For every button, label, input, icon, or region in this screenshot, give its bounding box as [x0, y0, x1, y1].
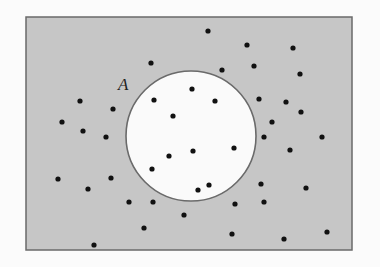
- point-outside-a: [141, 225, 146, 230]
- point-outside-a: [150, 199, 155, 204]
- venn-diagram: A: [0, 0, 380, 267]
- point-outside-a: [126, 199, 131, 204]
- point-outside-a: [110, 106, 115, 111]
- point-inside-a: [166, 153, 171, 158]
- point-inside-a: [189, 86, 194, 91]
- point-inside-a: [212, 98, 217, 103]
- point-outside-a: [205, 28, 210, 33]
- point-outside-a: [181, 212, 186, 217]
- point-outside-a: [55, 176, 60, 181]
- point-outside-a: [261, 199, 266, 204]
- point-outside-a: [290, 45, 295, 50]
- point-outside-a: [77, 98, 82, 103]
- point-outside-a: [103, 134, 108, 139]
- point-outside-a: [219, 67, 224, 72]
- point-outside-a: [59, 119, 64, 124]
- point-outside-a: [85, 186, 90, 191]
- point-outside-a: [281, 236, 286, 241]
- point-outside-a: [251, 63, 256, 68]
- point-outside-a: [108, 175, 113, 180]
- point-inside-a: [206, 182, 211, 187]
- point-inside-a: [149, 166, 154, 171]
- point-outside-a: [80, 128, 85, 133]
- point-outside-a: [298, 109, 303, 114]
- point-outside-a: [287, 147, 292, 152]
- point-outside-a: [256, 96, 261, 101]
- point-inside-a: [151, 97, 156, 102]
- point-outside-a: [229, 231, 234, 236]
- point-inside-a: [170, 113, 175, 118]
- point-outside-a: [244, 42, 249, 47]
- set-a-label: A: [117, 75, 129, 94]
- point-outside-a: [91, 242, 96, 247]
- point-outside-a: [297, 71, 302, 76]
- point-inside-a: [195, 187, 200, 192]
- point-outside-a: [324, 229, 329, 234]
- point-outside-a: [319, 134, 324, 139]
- point-outside-a: [261, 134, 266, 139]
- point-outside-a: [269, 119, 274, 124]
- point-inside-a: [231, 145, 236, 150]
- point-outside-a: [283, 99, 288, 104]
- point-inside-a: [190, 148, 195, 153]
- point-outside-a: [303, 185, 308, 190]
- point-outside-a: [148, 60, 153, 65]
- point-outside-a: [232, 201, 237, 206]
- point-outside-a: [258, 181, 263, 186]
